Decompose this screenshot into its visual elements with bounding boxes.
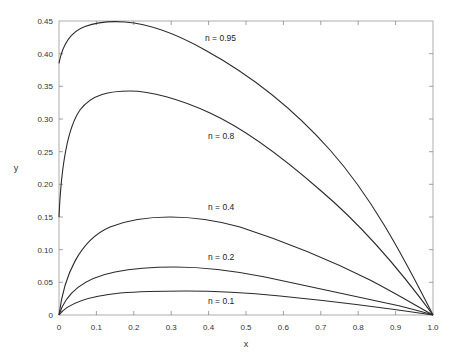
svg-text:0.40: 0.40 xyxy=(37,50,53,59)
svg-text:0.10: 0.10 xyxy=(37,246,53,255)
svg-text:0.20: 0.20 xyxy=(37,180,53,189)
svg-text:0.25: 0.25 xyxy=(37,148,53,157)
y-axis-label: y xyxy=(14,163,19,173)
curve-n-0.2 xyxy=(59,267,433,315)
curve-n-0.8 xyxy=(59,91,433,315)
svg-text:0.8: 0.8 xyxy=(353,323,365,332)
svg-text:0.05: 0.05 xyxy=(37,278,53,287)
svg-text:0.1: 0.1 xyxy=(91,323,103,332)
svg-text:0: 0 xyxy=(49,311,54,320)
svg-text:0.45: 0.45 xyxy=(37,17,53,26)
label-n-0.95: n = 0.95 xyxy=(205,33,236,43)
svg-text:0.7: 0.7 xyxy=(315,323,327,332)
svg-text:0.9: 0.9 xyxy=(390,323,402,332)
y-tick-labels: 0 0.05 0.10 0.15 0.20 0.25 0.30 0.35 0.4… xyxy=(37,17,53,320)
label-n-0.8: n = 0.8 xyxy=(208,131,235,141)
svg-text:0.15: 0.15 xyxy=(37,213,53,222)
label-n-0.2: n = 0.2 xyxy=(208,252,235,262)
svg-text:0.4: 0.4 xyxy=(203,323,215,332)
svg-text:1.0: 1.0 xyxy=(427,323,439,332)
svg-text:0.30: 0.30 xyxy=(37,115,53,124)
svg-text:0: 0 xyxy=(57,323,62,332)
plot-frame xyxy=(59,21,433,315)
x-tick-labels: 0 0.1 0.2 0.3 0.4 0.5 0.6 0.7 0.8 0.9 1.… xyxy=(57,323,439,332)
curve-n-0.95 xyxy=(59,22,433,315)
label-n-0.4: n = 0.4 xyxy=(208,202,235,212)
curve-n-0.4 xyxy=(59,217,433,315)
svg-text:0.6: 0.6 xyxy=(278,323,290,332)
svg-text:0.35: 0.35 xyxy=(37,82,53,91)
svg-text:0.2: 0.2 xyxy=(128,323,140,332)
svg-text:0.3: 0.3 xyxy=(166,323,178,332)
label-n-0.1: n = 0.1 xyxy=(208,296,235,306)
line-chart: 0 0.1 0.2 0.3 0.4 0.5 0.6 0.7 0.8 0.9 1.… xyxy=(0,0,454,363)
y-axis-ticks xyxy=(59,54,433,283)
svg-text:0.5: 0.5 xyxy=(240,323,252,332)
x-axis-label: x xyxy=(244,339,249,349)
curve-labels: n = 0.95 n = 0.8 n = 0.4 n = 0.2 n = 0.1 xyxy=(205,33,236,306)
curves xyxy=(59,22,433,315)
